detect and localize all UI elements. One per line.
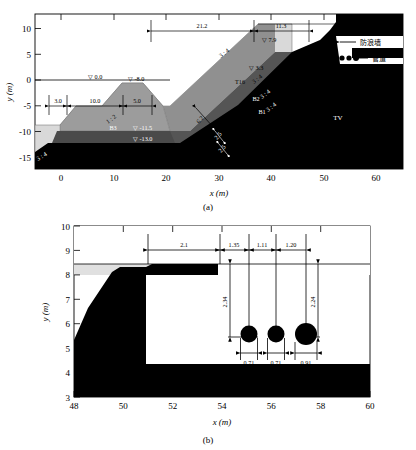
xtick-10: 10 [110, 173, 120, 183]
b-ytick-9: 9 [66, 246, 71, 256]
pipe-dot-icon [346, 55, 351, 60]
elev-neg-13-0: ▽ -13.0 [133, 135, 152, 142]
panel-b-y-axis-label: y (m) [40, 303, 50, 323]
elev-neg-8-0: ▽ -8.0 [128, 75, 144, 82]
dia-0-71-b: 0.71 [271, 359, 282, 366]
ytick-neg5: -5 [24, 101, 32, 111]
dim-3-0: 3.0 [54, 97, 62, 104]
dim-11-3: 11.3 [276, 22, 287, 29]
pipe-1 [241, 326, 258, 343]
xtick-40: 40 [267, 173, 277, 183]
zone-b2-label: B2 [252, 95, 259, 102]
legend-pipeline-label: 管道 [372, 54, 386, 63]
xtick-50: 50 [320, 173, 330, 183]
b-ytick-10: 10 [61, 222, 71, 232]
dim-b-2-34: 2.34 [221, 297, 228, 308]
panel-a-svg: 21.2 11.3 3.0 10.0 5.0 6.2 2.5 [0, 0, 416, 212]
panel-b-x-axis-label: x (m) [212, 417, 232, 427]
zone-tv-label: TV [333, 114, 342, 122]
elev-0-0: ▽ 0.0 [88, 73, 102, 80]
dim-b-2-1: 2.1 [180, 241, 188, 248]
panel-b-svg: 2.1 1.35 1.11 1.20 2.34 2.24 [0, 212, 416, 450]
elev-neg-11-5: ▽ -11.5 [133, 124, 152, 131]
b-xtick-50: 50 [119, 401, 129, 411]
zone-b3-lower-shape [52, 131, 175, 143]
structure-cut [146, 300, 218, 364]
ytick-neg15: -15 [19, 153, 31, 163]
xtick-30: 30 [215, 173, 225, 183]
b-ytick-4: 4 [66, 368, 71, 378]
panel-b-caption: (b) [203, 435, 214, 445]
b-xtick-48: 48 [70, 401, 80, 411]
dim-b-1-20: 1.20 [286, 241, 297, 248]
dia-0-91: 0.91 [301, 359, 312, 366]
dim-10-0: 10.0 [90, 97, 101, 104]
dim-5-0: 5.0 [133, 97, 141, 104]
pipe-dot-icon [339, 55, 344, 60]
dim-21-2: 21.2 [197, 22, 208, 29]
b-ytick-8: 8 [66, 270, 71, 280]
zone-t16-label: T16 [235, 78, 245, 85]
ytick-10: 10 [22, 24, 32, 34]
b-xtick-52: 52 [168, 401, 177, 411]
b-xtick-58: 58 [316, 401, 326, 411]
panel-a-caption: (a) [203, 202, 213, 212]
dim-b-1-11: 1.11 [257, 241, 268, 248]
legend-wave-wall-label: 防浪墙 [360, 38, 381, 47]
ytick-0: 0 [27, 75, 32, 85]
zone-b3-label: B3 [109, 124, 116, 131]
zone-b1-label: B1 [258, 108, 265, 115]
dim-b-2-24: 2.24 [309, 297, 316, 308]
b-ytick-7: 7 [66, 295, 71, 305]
pipe-3 [295, 323, 317, 345]
dim-b-1-35: 1.35 [229, 241, 240, 248]
pipe-2 [268, 326, 285, 343]
ytick-neg10: -10 [19, 127, 31, 137]
figure-root: 21.2 11.3 3.0 10.0 5.0 6.2 2.5 [0, 0, 416, 450]
xtick-60: 60 [372, 173, 382, 183]
xtick-0: 0 [59, 173, 64, 183]
panel-a-x-axis-label: x (m) [209, 188, 229, 198]
panel-b: 2.1 1.35 1.11 1.20 2.34 2.24 [0, 212, 416, 450]
ytick-5: 5 [27, 50, 32, 60]
xtick-20: 20 [162, 173, 172, 183]
elev-7-9: ▽ 7.9 [262, 36, 276, 43]
elev-3-3: ▽ 3.3 [249, 64, 263, 71]
panel-a: 21.2 11.3 3.0 10.0 5.0 6.2 2.5 [0, 0, 416, 212]
panel-a-y-axis-label: y (m) [4, 83, 14, 103]
b-ytick-6: 6 [66, 319, 71, 329]
b-xtick-54: 54 [218, 401, 228, 411]
b-xtick-56: 56 [267, 401, 277, 411]
dia-0-71-a: 0.71 [244, 359, 255, 366]
b-ytick-5: 5 [66, 344, 71, 354]
b-xtick-60: 60 [366, 401, 376, 411]
